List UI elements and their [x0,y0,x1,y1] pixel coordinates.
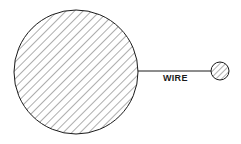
wire-label: WIRE [163,73,188,83]
small-sphere [211,62,229,80]
diagram-canvas [0,0,241,144]
large-sphere [14,10,138,134]
